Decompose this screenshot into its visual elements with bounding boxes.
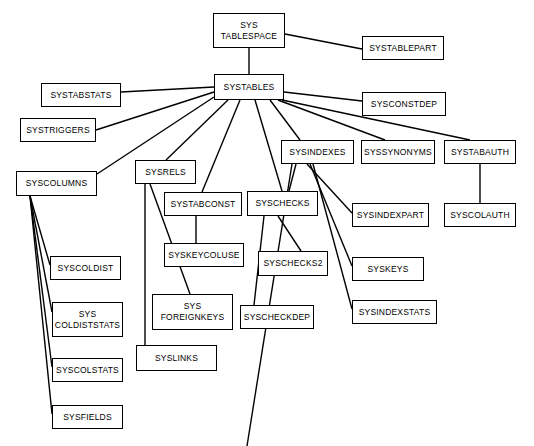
node-sysforeignkeys[interactable]: SYS FOREIGNKEYS <box>152 294 233 330</box>
edge-systables-to-syschecks <box>255 100 282 191</box>
edge-syscolumns-to-sysfields <box>30 196 52 414</box>
edge-systables-to-systabconst <box>202 100 240 192</box>
node-syssynonyms[interactable]: SYSSYNONYMS <box>361 140 435 164</box>
edge-systables-to-systabstats <box>121 87 214 92</box>
node-sysindexpart[interactable]: SYSINDEXPART <box>352 203 429 227</box>
node-systabauth[interactable]: SYSTABAUTH <box>444 140 516 164</box>
node-sysfields[interactable]: SYSFIELDS <box>52 405 123 429</box>
node-systablepart[interactable]: SYSTABLEPART <box>362 36 444 60</box>
diagram-canvas: SYS TABLESPACESYSTABLEPARTSYSTABLESSYSTA… <box>0 0 534 446</box>
node-syskeycoluse[interactable]: SYSKEYCOLUSE <box>164 243 244 267</box>
node-sysindexstats[interactable]: SYSINDEXSTATS <box>352 300 437 324</box>
node-systriggers[interactable]: SYSTRIGGERS <box>20 118 96 142</box>
edge-syscolumns-to-syscoldiststats <box>30 196 52 312</box>
edge-systables-to-sysconstdep <box>284 92 362 101</box>
node-syscoldist[interactable]: SYSCOLDIST <box>50 256 121 280</box>
node-syscolstats[interactable]: SYSCOLSTATS <box>52 358 123 382</box>
node-syslinks[interactable]: SYSLINKS <box>136 345 217 371</box>
node-syscoldiststats[interactable]: SYS COLDISTSTATS <box>52 302 123 337</box>
edge-syscolumns-to-syscolstats <box>30 196 52 367</box>
node-syscheckdep[interactable]: SYSCHECKDEP <box>240 305 314 329</box>
node-systablespace[interactable]: SYS TABLESPACE <box>213 13 285 48</box>
node-sysrels[interactable]: SYSRELS <box>135 160 196 184</box>
node-systabstats[interactable]: SYSTABSTATS <box>41 83 121 107</box>
node-sysindexes[interactable]: SYSINDEXES <box>281 140 354 164</box>
node-syscolauth[interactable]: SYSCOLAUTH <box>444 203 516 227</box>
node-syskeys[interactable]: SYSKEYS <box>352 257 424 281</box>
node-syscolumns[interactable]: SYSCOLUMNS <box>16 171 97 196</box>
edge-sysindexes-to-sysindexstats <box>313 164 352 309</box>
node-syschecks2[interactable]: SYSCHECKS2 <box>258 251 328 276</box>
node-sysconstdep[interactable]: SYSCONSTDEP <box>362 92 446 116</box>
node-systabconst[interactable]: SYSTABCONST <box>164 192 242 216</box>
edge-systablespace-to-systablepart <box>285 34 362 49</box>
node-syschecks[interactable]: SYSCHECKS <box>247 191 318 216</box>
node-systables[interactable]: SYSTABLES <box>214 74 284 100</box>
